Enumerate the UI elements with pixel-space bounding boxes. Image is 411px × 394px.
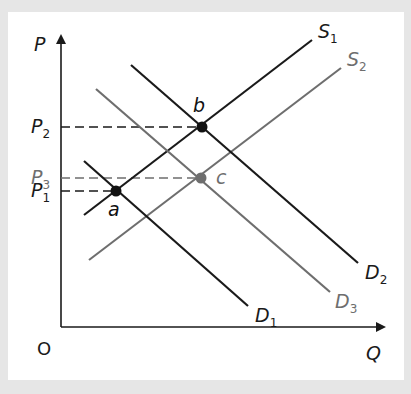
point-label-b: b	[193, 94, 205, 116]
price-label-P2: P2	[31, 115, 50, 141]
y-axis-label: P	[34, 33, 46, 55]
supply-demand-diagram: P Q O P2P3P1 S1S2D1D2D3 abc	[0, 0, 411, 394]
origin-label: O	[37, 338, 51, 359]
curve-D3	[96, 89, 330, 292]
point-label-c: c	[216, 166, 227, 188]
equilibrium-point-c	[196, 173, 207, 184]
curve-label-D1: D1	[255, 304, 277, 330]
x-axis-label: Q	[366, 342, 381, 364]
curve-label-S1: S1	[318, 20, 338, 46]
curve-S2	[89, 68, 341, 260]
curve-label-D2: D2	[365, 261, 387, 287]
curve-label-S2: S2	[347, 48, 367, 74]
equilibrium-point-a	[111, 186, 122, 197]
equilibrium-point-b	[197, 122, 208, 133]
curve-label-D3: D3	[335, 290, 357, 316]
point-label-a: a	[108, 198, 120, 220]
